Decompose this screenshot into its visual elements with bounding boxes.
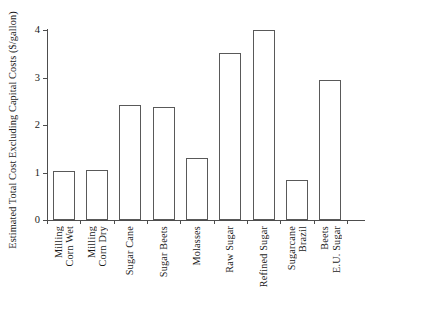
- x-tick-mark: [114, 220, 115, 224]
- x-axis-label-line: Sugar Cane: [125, 226, 136, 275]
- x-tick-mark: [147, 220, 148, 224]
- bar: [319, 80, 341, 220]
- x-axis-label-line: Sugar Beets: [158, 226, 169, 277]
- x-axis-label-line: E.U. Sugar: [330, 226, 341, 273]
- y-tick-label: 1: [35, 167, 40, 178]
- plot-area: 01234: [47, 30, 347, 220]
- bar: [253, 30, 275, 220]
- bar: [219, 53, 241, 220]
- x-axis-label-line: Sugarcane: [286, 226, 297, 270]
- x-tick-mark: [47, 220, 48, 224]
- y-tick-mark: [43, 78, 47, 79]
- x-axis-line: [47, 220, 365, 221]
- y-tick-label: 0: [35, 215, 40, 226]
- x-tick-mark: [214, 220, 215, 224]
- y-tick-mark: [43, 173, 47, 174]
- bar: [53, 171, 75, 220]
- y-tick-label: 2: [35, 120, 40, 131]
- bar: [119, 105, 141, 220]
- x-axis-label-line: Milling: [86, 226, 97, 258]
- y-axis-line: [47, 29, 48, 221]
- x-axis-label-line: Molasses: [191, 226, 202, 266]
- y-tick-label: 4: [35, 25, 40, 36]
- x-tick-mark: [347, 220, 348, 224]
- bar: [286, 180, 308, 220]
- y-tick-mark: [43, 125, 47, 126]
- bar-chart: Estimated Total Cost Excluding Capital C…: [0, 0, 426, 309]
- bar: [86, 170, 108, 220]
- x-axis-label-line: Raw Sugar: [225, 226, 236, 273]
- y-axis-title-text: Estimated Total Cost Excluding Capital C…: [7, 11, 18, 248]
- y-tick-label: 3: [35, 72, 40, 83]
- x-tick-mark: [280, 220, 281, 224]
- x-tick-mark: [314, 220, 315, 224]
- y-axis-title: Estimated Total Cost Excluding Capital C…: [0, 0, 24, 260]
- y-tick-mark: [43, 30, 47, 31]
- x-axis-label-line: Milling: [52, 226, 63, 258]
- x-axis-label-line: Refined Sugar: [258, 226, 269, 287]
- bar: [186, 158, 208, 220]
- x-axis-label-line: Beets: [319, 226, 330, 250]
- x-tick-mark: [80, 220, 81, 224]
- x-axis-label-line: Corn Wet: [64, 226, 75, 267]
- x-tick-mark: [180, 220, 181, 224]
- x-axis-label-line: Corn Dry: [97, 226, 108, 266]
- bar: [153, 107, 175, 220]
- x-tick-mark: [247, 220, 248, 224]
- x-axis-label-line: Brazil: [297, 226, 308, 252]
